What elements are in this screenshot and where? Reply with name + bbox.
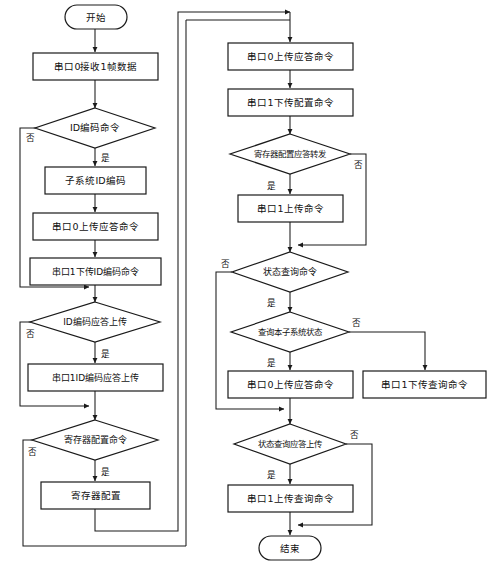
node-uart1-upload-cmd-label: 串口1上传命令 <box>257 203 323 214</box>
flowchart-page: 开始 串口0接收1帧数据 ID编码命令 子系统ID编码 串口0上传应答命令 串口… <box>0 0 490 567</box>
node-uart1-id-encode-ack-upload-label: 串口1ID编码应答上传 <box>52 372 139 383</box>
edge-label-idcmd-no: 否 <box>26 133 35 143</box>
node-uart0-upload-ack2[interactable]: 串口0上传应答命令 <box>228 43 353 70</box>
node-start[interactable]: 开始 <box>65 5 127 29</box>
edge-label-regcmd-no: 否 <box>28 447 37 457</box>
node-subsystem-id-encode[interactable]: 子系统ID编码 <box>45 167 146 194</box>
node-reg-config-cmd[interactable]: 寄存器配置命令 <box>32 420 158 460</box>
node-end-label: 结束 <box>280 543 300 554</box>
node-uart1-id-encode-ack-upload[interactable]: 串口1ID编码应答上传 <box>28 364 163 391</box>
edge-label-regcmd-yes: 是 <box>101 467 110 477</box>
node-uart1-upload-query[interactable]: 串口1上传查询命令 <box>228 485 353 512</box>
node-uart1-down-query[interactable]: 串口1下传查询命令 <box>363 371 486 398</box>
edge-label-querylocal-yes: 是 <box>267 358 276 368</box>
edge-label-regack-no: 否 <box>354 160 363 170</box>
node-reg-config[interactable]: 寄存器配置 <box>41 482 150 509</box>
node-status-query-cmd[interactable]: 状态查询命令 <box>232 252 348 292</box>
node-uart1-down-id-encode[interactable]: 串口1下传ID编码命令 <box>30 258 161 285</box>
node-reg-config-cmd-label: 寄存器配置命令 <box>64 434 127 445</box>
node-id-encode-ack-upload-label: ID编码应答上传 <box>63 316 127 327</box>
node-uart1-upload-query-label: 串口1上传查询命令 <box>247 493 333 504</box>
node-query-local-status-label: 查询本子系统状态 <box>258 327 323 337</box>
node-recv-frame-label: 串口0接收1帧数据 <box>54 61 136 72</box>
edge-querylocal-no <box>349 332 425 370</box>
edge-label-statusquery-yes: 是 <box>267 298 276 308</box>
node-status-query-cmd-label: 状态查询命令 <box>263 266 317 277</box>
edge-label-statusquery-no: 否 <box>221 259 230 269</box>
node-uart0-upload-ack[interactable]: 串口0上传应答命令 <box>33 213 158 240</box>
edge-label-idack-no: 否 <box>26 329 35 339</box>
node-status-query-ack-upload-label: 状态查询应答上传 <box>258 439 322 449</box>
node-uart0-upload-ack3-label: 串口0上传应答命令 <box>247 379 333 390</box>
node-recv-frame[interactable]: 串口0接收1帧数据 <box>33 53 158 80</box>
node-start-label: 开始 <box>86 12 106 23</box>
node-reg-config-ack-forward-label: 寄存器配置应答转发 <box>254 149 327 159</box>
node-id-encode-cmd[interactable]: ID编码命令 <box>35 108 155 148</box>
edge-label-statusack-no: 否 <box>350 430 359 440</box>
node-id-encode-cmd-label: ID编码命令 <box>70 122 120 133</box>
node-uart1-down-id-encode-label: 串口1下传ID编码命令 <box>52 266 139 277</box>
node-uart1-down-config[interactable]: 串口1下传配置命令 <box>228 89 353 116</box>
node-end[interactable]: 结束 <box>259 536 321 560</box>
edge-label-idcmd-yes: 是 <box>101 153 110 163</box>
node-uart0-upload-ack2-label: 串口0上传应答命令 <box>247 51 333 62</box>
node-reg-config-ack-forward[interactable]: 寄存器配置应答转发 <box>230 134 350 174</box>
node-uart0-upload-ack3[interactable]: 串口0上传应答命令 <box>228 371 353 398</box>
node-query-local-status[interactable]: 查询本子系统状态 <box>231 312 349 352</box>
node-status-query-ack-upload[interactable]: 状态查询应答上传 <box>234 424 346 464</box>
node-uart1-upload-cmd[interactable]: 串口1上传命令 <box>238 195 343 222</box>
edge-label-regack-yes: 是 <box>267 181 276 191</box>
edge-label-statusack-yes: 是 <box>267 470 276 480</box>
flowchart-canvas: 开始 串口0接收1帧数据 ID编码命令 子系统ID编码 串口0上传应答命令 串口… <box>0 0 490 567</box>
node-reg-config-label: 寄存器配置 <box>71 490 121 501</box>
edge-label-querylocal-no: 否 <box>352 318 361 328</box>
edge-label-idack-yes: 是 <box>101 349 110 359</box>
node-subsystem-id-encode-label: 子系统ID编码 <box>65 175 125 186</box>
node-uart1-down-query-label: 串口1下传查询命令 <box>381 379 467 390</box>
node-uart1-down-config-label: 串口1下传配置命令 <box>247 97 333 108</box>
node-id-encode-ack-upload[interactable]: ID编码应答上传 <box>30 302 160 342</box>
node-uart0-upload-ack-label: 串口0上传应答命令 <box>52 221 138 232</box>
